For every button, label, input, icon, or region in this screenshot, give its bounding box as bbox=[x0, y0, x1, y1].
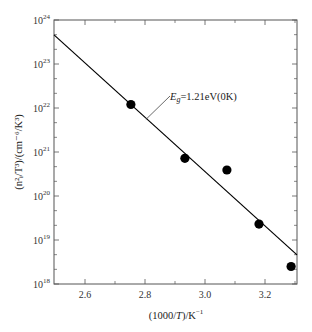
plot-border bbox=[54, 20, 297, 284]
y-tick-label: 1019 bbox=[33, 233, 51, 246]
x-axis-label: (1000/T)/K−1 bbox=[149, 308, 204, 322]
data-points bbox=[126, 100, 295, 271]
data-point bbox=[287, 262, 296, 271]
y-tick-label: 1018 bbox=[33, 277, 51, 290]
x-tick-label: 3.0 bbox=[199, 289, 212, 300]
x-tick-label: 3.2 bbox=[259, 289, 272, 300]
data-point bbox=[222, 165, 231, 174]
y-tick-label: 1020 bbox=[33, 189, 51, 202]
data-point bbox=[180, 154, 189, 163]
data-point bbox=[254, 219, 263, 228]
y-tick-label: 1021 bbox=[33, 145, 51, 158]
y-axis-label: (n²ᵢ/T³)/(cm⁻⁶/K³) bbox=[13, 114, 25, 190]
data-point bbox=[126, 100, 135, 109]
annotation-leader-line bbox=[146, 96, 170, 119]
y-tick-label: 1023 bbox=[33, 57, 51, 70]
y-tick-label: 1022 bbox=[33, 101, 51, 114]
x-tick-label: 2.8 bbox=[139, 289, 152, 300]
plot-frame bbox=[54, 20, 297, 284]
annotation-text: Eg=1.21eV(0K) bbox=[169, 91, 237, 104]
eg-annotation: Eg=1.21eV(0K) bbox=[146, 91, 237, 119]
x-tick-label: 2.6 bbox=[79, 289, 92, 300]
y-tick-label: 1024 bbox=[33, 13, 51, 26]
y-axis-ticks: 1018101910201021102210231024 bbox=[33, 13, 297, 290]
chart: 1018101910201021102210231024 2.62.83.03.… bbox=[0, 0, 312, 332]
